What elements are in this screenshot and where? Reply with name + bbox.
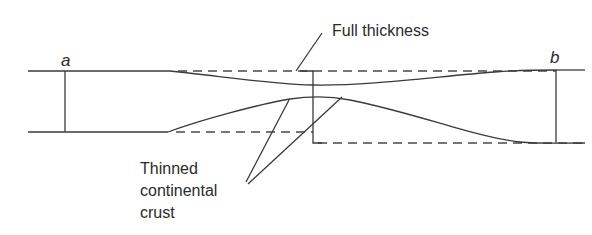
lower-crust-surface [168,97,585,143]
full-thickness-leader [296,33,322,71]
crustal-thinning-diagram: a b Full thickness Thinned continental c… [0,0,592,235]
thinned-crust-leader-1 [246,100,289,182]
thinned-crust-leader-2 [248,97,342,184]
label-point-b: b [550,48,559,67]
label-thinned-line3: crust [140,204,175,221]
upper-crust-surface [170,70,556,85]
label-thinned-line2: continental [140,182,217,199]
label-point-a: a [61,51,70,70]
label-thinned-line1: Thinned [140,160,198,177]
label-full-thickness: Full thickness [332,22,429,39]
